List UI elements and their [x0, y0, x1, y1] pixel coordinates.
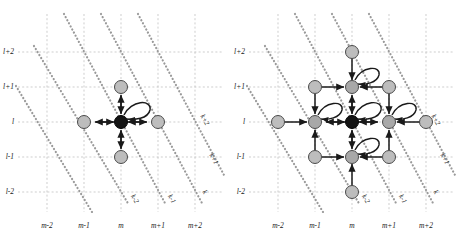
x-label-m-plus-2: m+2	[188, 221, 202, 230]
y-label-l: l	[243, 117, 245, 126]
diag-label-k-plus-1: k+1	[207, 152, 220, 166]
self-loop-m-lplus1	[355, 68, 379, 84]
self-loops	[318, 68, 416, 154]
diag-label-k-minus-2: k-2	[360, 193, 372, 205]
node-m-lminus1[interactable]	[115, 151, 128, 164]
y-label-l-plus-1: l+1	[3, 82, 14, 91]
node-m-lplus2[interactable]	[346, 46, 359, 59]
node-mplus1-lminus1[interactable]	[383, 151, 396, 164]
x-axis-labels: m-2 m-1 m m+1 m+2	[272, 221, 433, 230]
y-label-l: l	[12, 117, 14, 126]
x-label-m-minus-1: m-1	[78, 221, 90, 230]
self-loop-center	[355, 103, 381, 120]
y-label-l-minus-2: l-2	[6, 187, 15, 196]
node-mminus2-l[interactable]	[272, 116, 285, 129]
node-center-m-l[interactable]	[115, 116, 128, 129]
x-label-m: m	[349, 221, 355, 230]
node-m-lplus1[interactable]	[115, 81, 128, 94]
node-center-m-l[interactable]	[346, 116, 359, 129]
y-label-l-plus-2: l+2	[3, 47, 14, 56]
diag-label-k-plus-2: k+2	[198, 113, 211, 127]
right-panel-canvas: l+2 l+1 l l-1 l-2 m-2 m-1 m m+1 m+2 k+2 …	[231, 0, 461, 242]
diag-label-k: k	[431, 189, 440, 196]
figure-container: l+2 l+1 l l-1 l-2 m-2 m-1 m m+1 m+2 k+2 …	[0, 0, 461, 242]
x-label-m-plus-2: m+2	[419, 221, 433, 230]
y-label-l-minus-2: l-2	[237, 187, 246, 196]
diagonal-labels: k+2 k+1 k k-1 k-2	[129, 113, 220, 205]
node-mminus1-lplus1[interactable]	[309, 81, 322, 94]
x-label-m-minus-2: m-2	[272, 221, 284, 230]
diag-label-k-minus-2: k-2	[129, 193, 141, 205]
diag-label-k-minus-1: k-1	[397, 193, 408, 205]
left-panel-canvas: l+2 l+1 l l-1 l-2 m-2 m-1 m m+1 m+2 k+2 …	[0, 0, 230, 242]
y-label-l-plus-1: l+1	[234, 82, 245, 91]
y-label-l-plus-2: l+2	[234, 47, 245, 56]
node-mplus1-l[interactable]	[152, 116, 165, 129]
x-label-m: m	[118, 221, 124, 230]
y-axis-labels: l+2 l+1 l l-1 l-2	[3, 47, 14, 196]
node-mminus1-l[interactable]	[78, 116, 91, 129]
diag-label-k: k	[200, 189, 209, 196]
node-mplus1-lplus1[interactable]	[383, 81, 396, 94]
x-label-m-plus-1: m+1	[151, 221, 165, 230]
x-label-m-plus-1: m+1	[382, 221, 396, 230]
diag-label-k-plus-1: k+1	[438, 152, 451, 166]
x-label-m-minus-2: m-2	[41, 221, 53, 230]
node-m-lminus1[interactable]	[346, 151, 359, 164]
node-mminus1-lminus1[interactable]	[309, 151, 322, 164]
node-mminus1-l[interactable]	[309, 116, 322, 129]
y-label-l-minus-1: l-1	[237, 152, 245, 161]
diag-label-k-minus-1: k-1	[166, 193, 177, 205]
x-label-m-minus-1: m-1	[309, 221, 321, 230]
y-axis-labels: l+2 l+1 l l-1 l-2	[234, 47, 245, 196]
self-loop-m-lminus1	[355, 138, 379, 154]
self-loop-mminus1-l	[318, 103, 342, 119]
node-mplus1-l[interactable]	[383, 116, 396, 129]
node-mplus2-l[interactable]	[420, 116, 433, 129]
y-label-l-minus-1: l-1	[6, 152, 14, 161]
diagonal-labels: k+2 k+1 k k-1 k-2	[360, 113, 451, 205]
node-m-lplus1[interactable]	[346, 81, 359, 94]
self-loop-center	[124, 103, 150, 120]
x-axis-labels: m-2 m-1 m m+1 m+2	[41, 221, 202, 230]
node-m-lminus2[interactable]	[346, 186, 359, 199]
panel-right: l+2 l+1 l l-1 l-2 m-2 m-1 m m+1 m+2 k+2 …	[231, 0, 461, 242]
lattice-nodes	[78, 81, 165, 164]
panel-left: l+2 l+1 l l-1 l-2 m-2 m-1 m m+1 m+2 k+2 …	[0, 0, 230, 242]
self-loop-mplus1-l	[392, 103, 416, 119]
